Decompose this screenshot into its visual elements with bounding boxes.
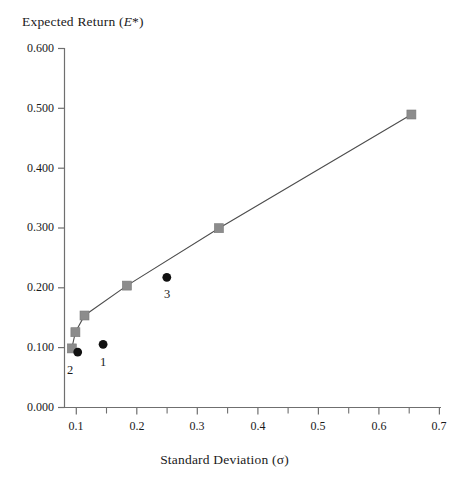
x-axis-title: Standard Deviation (σ) — [0, 452, 449, 468]
x-tick-label: 0.1 — [56, 419, 96, 434]
frontier-marker — [80, 311, 89, 320]
x-tick-label: 0.3 — [177, 419, 217, 434]
y-tick-label: 0.000 — [0, 400, 54, 415]
portfolio-point-2 — [73, 348, 82, 357]
x-tick-label: 0.6 — [359, 419, 399, 434]
x-axis-title-symbol: σ — [277, 452, 284, 467]
x-axis-title-suffix: ) — [284, 452, 289, 467]
efficient-frontier-line — [72, 115, 412, 349]
portfolio-label-3: 3 — [159, 287, 175, 302]
x-tick-label: 0.4 — [238, 419, 278, 434]
x-axis-title-prefix: Standard Deviation ( — [160, 452, 276, 467]
x-tick-label: 0.2 — [117, 419, 157, 434]
frontier-marker — [71, 328, 80, 337]
chart-container: Expected Return (E*) — [0, 0, 449, 483]
y-tick-label: 0.200 — [0, 280, 54, 295]
portfolio-label-2: 2 — [62, 363, 78, 378]
portfolio-point-1 — [99, 340, 108, 349]
frontier-marker — [407, 110, 416, 119]
y-tick-label: 0.100 — [0, 340, 54, 355]
portfolio-point-3 — [162, 273, 171, 282]
plot-area — [0, 0, 449, 483]
y-axis-ticks — [58, 49, 65, 408]
efficient-frontier-markers — [67, 110, 416, 353]
x-tick-label: 0.7 — [419, 419, 449, 434]
x-axis-major-ticks — [76, 408, 439, 415]
y-tick-label: 0.600 — [0, 41, 54, 56]
frontier-marker — [214, 224, 223, 233]
portfolio-label-1: 1 — [95, 355, 111, 370]
y-tick-label: 0.500 — [0, 101, 54, 116]
frontier-marker — [122, 281, 131, 290]
y-tick-label: 0.400 — [0, 161, 54, 176]
x-tick-label: 0.5 — [298, 419, 338, 434]
y-tick-label: 0.300 — [0, 220, 54, 235]
